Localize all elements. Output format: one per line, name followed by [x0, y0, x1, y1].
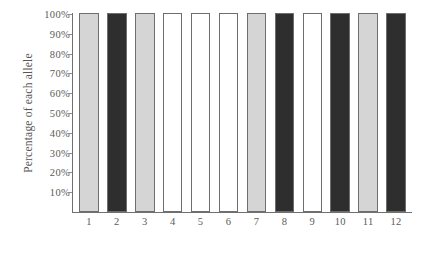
x-axis-tick-label: 6 — [215, 216, 243, 236]
x-axis-tick-label: 7 — [243, 216, 271, 236]
y-axis-tick-label: 10% — [50, 187, 70, 198]
y-axis-tick-labels: 100%90%80%70%60%50%40%30%20%10% — [36, 14, 70, 212]
x-axis-tick-labels: 123456789101112 — [73, 216, 412, 236]
x-axis-tick-label: 2 — [103, 216, 131, 236]
bar — [275, 13, 295, 212]
bar — [191, 13, 211, 212]
bar-slot — [382, 13, 410, 212]
bar — [330, 13, 350, 212]
y-axis-title-text: Percentage of each allele — [22, 53, 34, 173]
x-axis-tick-label: 3 — [131, 216, 159, 236]
bar — [107, 13, 127, 212]
x-axis-tick-label: 8 — [270, 216, 298, 236]
bar — [358, 13, 378, 212]
bar-slot — [187, 13, 215, 212]
y-axis-tick-label: 30% — [50, 147, 70, 158]
bar-slot — [243, 13, 271, 212]
y-axis-tick-label: 100% — [44, 9, 70, 20]
bar-chart-figure: Percentage of each allele 100%90%80%70%6… — [0, 0, 429, 255]
bar — [247, 13, 267, 212]
bar-slot — [215, 13, 243, 212]
y-axis-tick-label: 50% — [50, 108, 70, 119]
y-axis-tick-label: 20% — [50, 167, 70, 178]
bar-slot — [298, 13, 326, 212]
bar-slot — [159, 13, 187, 212]
bar — [303, 13, 323, 212]
y-axis-tick-label: 40% — [50, 127, 70, 138]
bar — [79, 13, 99, 212]
bar-slot — [75, 13, 103, 212]
x-axis-tick-label: 11 — [354, 216, 382, 236]
bar — [163, 13, 183, 212]
x-axis-tick-label: 1 — [75, 216, 103, 236]
x-axis-tick-label: 5 — [187, 216, 215, 236]
y-axis-tick-label: 60% — [50, 88, 70, 99]
x-axis-tick-label: 12 — [382, 216, 410, 236]
y-axis-tick-label: 90% — [50, 28, 70, 39]
x-axis-line — [72, 212, 412, 213]
bar-slot — [326, 13, 354, 212]
bar — [219, 13, 239, 212]
bar-slot — [103, 13, 131, 212]
bar — [135, 13, 155, 212]
bar-slot — [131, 13, 159, 212]
bar-slot — [354, 13, 382, 212]
x-axis-tick-label: 10 — [326, 216, 354, 236]
y-axis-tick-label: 70% — [50, 68, 70, 79]
x-axis-tick-label: 4 — [159, 216, 187, 236]
plot-area — [73, 13, 412, 212]
bar — [386, 13, 406, 212]
x-axis-tick-label: 9 — [298, 216, 326, 236]
bar-slot — [270, 13, 298, 212]
y-axis-tick-label: 80% — [50, 48, 70, 59]
